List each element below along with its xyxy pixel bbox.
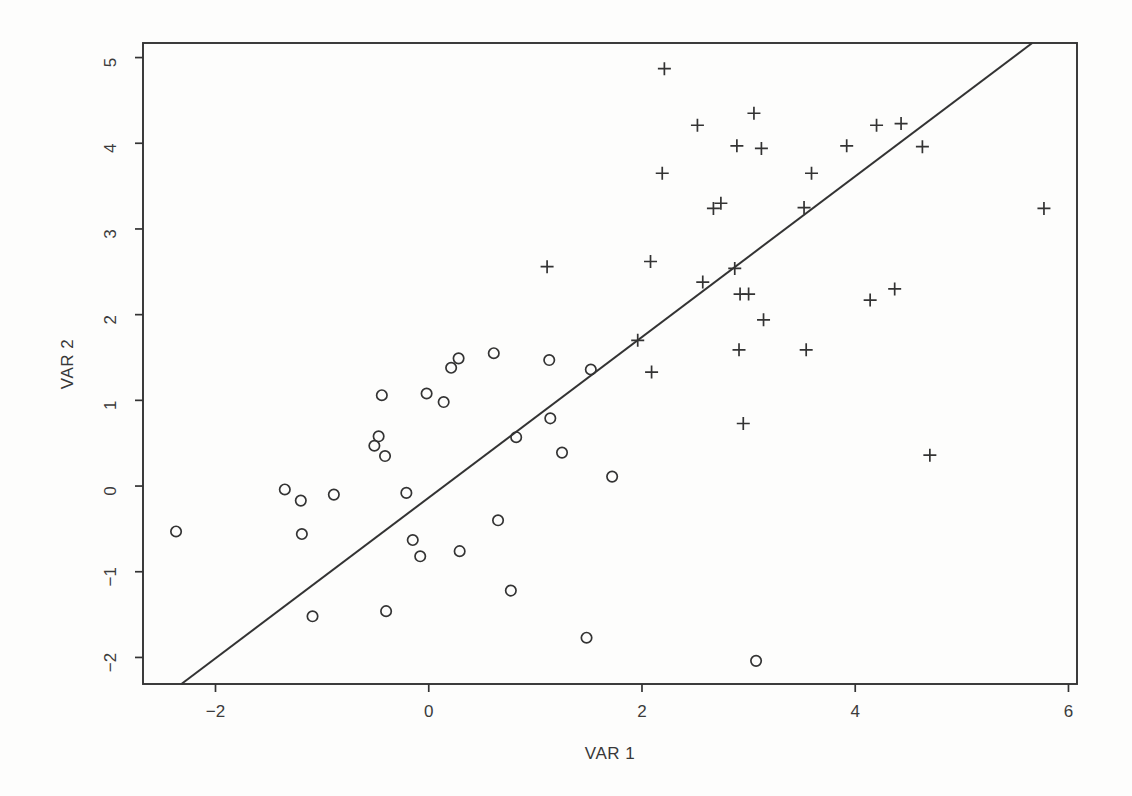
data-point-plus [742, 288, 755, 301]
y-tick-label: −1 [101, 567, 120, 586]
data-point-plus [800, 343, 813, 356]
x-tick-label: 4 [850, 702, 859, 721]
y-tick-label: 4 [101, 144, 120, 153]
data-point-circle [329, 489, 339, 499]
data-point-plus [755, 142, 768, 155]
data-point-circle [438, 397, 448, 407]
data-point-circle [415, 551, 425, 561]
data-point-plus [870, 119, 883, 132]
data-point-plus [656, 167, 669, 180]
data-point-plus [644, 255, 657, 268]
data-point-circle [751, 656, 761, 666]
data-point-plus [916, 140, 929, 153]
data-point-circle [489, 348, 499, 358]
data-point-plus [541, 260, 554, 273]
data-point-circle [297, 529, 307, 539]
data-point-plus [805, 167, 818, 180]
data-point-plus [840, 139, 853, 152]
data-point-circle [380, 451, 390, 461]
data-point-circle [307, 611, 317, 621]
data-point-plus [658, 62, 671, 75]
data-point-circle [408, 535, 418, 545]
data-point-circle [171, 526, 181, 536]
data-point-circle [607, 471, 617, 481]
data-point-circle [581, 633, 591, 643]
x-tick-label: −2 [206, 702, 225, 721]
data-point-plus [895, 117, 908, 130]
y-tick-label: 2 [101, 315, 120, 324]
data-point-plus [691, 119, 704, 132]
y-axis-label-wrap: VAR 2 [38, 0, 98, 728]
data-point-plus [733, 343, 746, 356]
data-point-plus [1037, 202, 1050, 215]
data-point-circle [446, 363, 456, 373]
data-point-circle [401, 488, 411, 498]
data-point-circle [454, 546, 464, 556]
data-point-circle [511, 432, 521, 442]
data-point-circle [544, 355, 554, 365]
data-point-circle [280, 484, 290, 494]
data-point-circle [373, 431, 383, 441]
data-point-plus [757, 313, 770, 326]
data-point-circle [506, 585, 516, 595]
x-tick-label: 6 [1064, 702, 1073, 721]
data-point-circle [381, 606, 391, 616]
chart-canvas: −20246−2−1012345 [0, 0, 1132, 796]
data-point-circle [296, 495, 306, 505]
y-axis-label: VAR 2 [58, 339, 78, 389]
data-point-plus [730, 139, 743, 152]
fit-line [181, 43, 1032, 684]
data-point-plus [923, 449, 936, 462]
x-tick-label: 2 [637, 702, 646, 721]
y-tick-label: 1 [101, 401, 120, 410]
data-point-circle [377, 390, 387, 400]
y-tick-label: 0 [101, 486, 120, 495]
plot-box [143, 43, 1077, 684]
data-point-circle [493, 515, 503, 525]
x-axis-label: VAR 1 [88, 744, 1132, 764]
data-point-plus [864, 294, 877, 307]
data-point-plus [888, 282, 901, 295]
y-tick-label: 3 [101, 229, 120, 238]
data-point-circle [557, 447, 567, 457]
y-tick-label: 5 [101, 58, 120, 67]
scatter-plot-figure: −20246−2−1012345 VAR 1 VAR 2 [0, 0, 1132, 796]
data-point-plus [645, 366, 658, 379]
data-point-circle [453, 353, 463, 363]
data-point-plus [737, 417, 750, 430]
data-point-circle [586, 364, 596, 374]
data-point-plus [747, 107, 760, 120]
x-tick-label: 0 [424, 702, 433, 721]
y-tick-label: −2 [101, 653, 120, 672]
data-point-circle [545, 413, 555, 423]
data-point-circle [421, 388, 431, 398]
